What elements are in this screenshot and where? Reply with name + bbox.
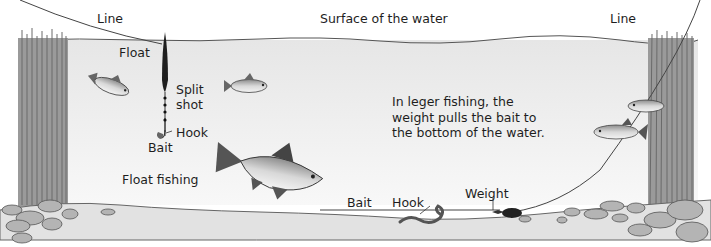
float-fishing-caption: Float fishing bbox=[122, 172, 198, 187]
left-reeds bbox=[18, 28, 68, 208]
note-line-1: In leger fishing, the bbox=[392, 94, 545, 110]
hook-label-float: Hook bbox=[176, 125, 208, 140]
split-shot-label-line2: shot bbox=[176, 97, 203, 112]
bait-label-float: Bait bbox=[148, 140, 173, 155]
split-shot-label-line1: Split bbox=[176, 82, 204, 97]
note-line-2: weight pulls the bait to bbox=[392, 110, 545, 126]
surface-label: Surface of the water bbox=[320, 11, 448, 26]
note-line-3: the bottom of the water. bbox=[392, 125, 545, 141]
water bbox=[18, 36, 698, 205]
float-label: Float bbox=[119, 45, 150, 60]
right-reeds bbox=[648, 30, 694, 208]
fish-right-upper bbox=[628, 100, 664, 112]
line-label-left: Line bbox=[97, 11, 123, 26]
fishing-diagram: Line Surface of the water Line Float Spl… bbox=[0, 0, 711, 247]
line-label-right: Line bbox=[610, 11, 636, 26]
weight-label: Weight bbox=[465, 186, 509, 201]
bait-label-leger: Bait bbox=[347, 195, 372, 210]
hook-label-leger: Hook bbox=[392, 195, 424, 210]
leger-fishing-note: In leger fishing, the weight pulls the b… bbox=[392, 94, 545, 141]
